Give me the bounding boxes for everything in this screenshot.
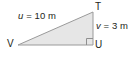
vertical-side-length-label: v = 3 m	[96, 21, 128, 31]
vertical-side-value: = 3 m	[104, 20, 129, 31]
hypotenuse-variable: u	[18, 10, 23, 21]
hypotenuse-value: = 10 m	[26, 10, 56, 21]
vertical-side-variable: v	[96, 20, 101, 31]
vertex-label-v: V	[7, 39, 14, 49]
vertex-label-u: U	[95, 40, 102, 50]
hypotenuse-length-label: u = 10 m	[18, 11, 56, 21]
triangle-figure: u = 10 m v = 3 m V T U	[0, 0, 138, 58]
vertex-label-t: T	[95, 2, 101, 12]
